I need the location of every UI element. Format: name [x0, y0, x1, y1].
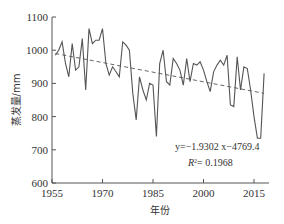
- evaporation-series-line: [55, 29, 264, 139]
- x-axis-title: 年份: [150, 204, 170, 216]
- x-tick-label: 2015: [243, 187, 266, 199]
- r-squared: R2= 0.1968: [187, 157, 233, 168]
- y-tick-label: 900: [32, 77, 49, 89]
- y-tick-label: 1000: [26, 44, 49, 56]
- x-axis-ticks: 19551970198520002015: [41, 179, 266, 199]
- y-tick-label: 1100: [26, 11, 48, 23]
- x-tick-label: 1955: [41, 187, 64, 199]
- y-axis-title: 蒸发量/mm: [10, 74, 22, 127]
- regression-equation: y=−1.9302 x−4769.4: [175, 141, 259, 152]
- x-tick-label: 1985: [142, 187, 165, 199]
- y-tick-label: 800: [32, 111, 49, 123]
- y-tick-label: 700: [32, 144, 49, 156]
- x-tick-label: 2000: [193, 187, 216, 199]
- x-tick-label: 1970: [92, 187, 115, 199]
- evaporation-line-chart: 60070080090010001100 1955197019852000201…: [0, 0, 284, 224]
